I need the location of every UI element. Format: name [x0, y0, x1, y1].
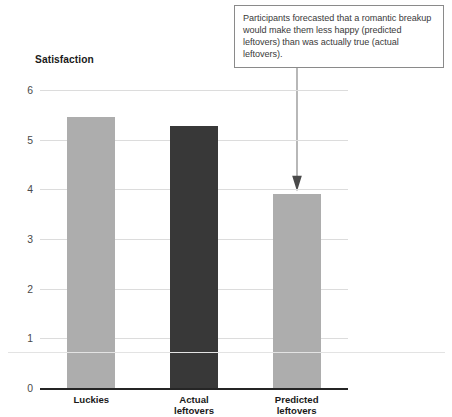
x-axis-tick-label: Predicted leftovers: [251, 394, 343, 417]
annotation-callout: Participants forecasted that a romantic …: [234, 5, 444, 68]
bar-luckies: [67, 117, 115, 388]
y-axis-tick-label: 5: [27, 134, 33, 145]
x-axis-tick-label: Luckies: [45, 394, 137, 405]
y-axis-tick-label: 2: [27, 283, 33, 294]
y-axis-tick-label: 3: [27, 234, 33, 245]
y-axis-tick-label: 0: [27, 383, 33, 394]
y-axis-title: Satisfaction: [35, 54, 94, 65]
gridline: [40, 90, 348, 91]
y-axis-tick-label: 4: [27, 184, 33, 195]
annotation-text: Participants forecasted that a romantic …: [243, 12, 436, 60]
x-axis-line: [40, 388, 348, 390]
x-axis-tick-label: Actual leftovers: [148, 394, 240, 417]
y-axis-tick-label: 6: [27, 85, 33, 96]
footer-divider: [8, 352, 445, 353]
bar-predicted-leftovers: [273, 194, 321, 388]
bar-actual-leftovers: [170, 126, 218, 388]
y-axis-tick-label: 1: [27, 333, 33, 344]
plot-area: 6543210 LuckiesActual leftoversPredicted…: [40, 90, 348, 298]
